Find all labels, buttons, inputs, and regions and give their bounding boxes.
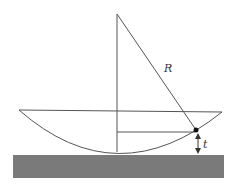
lens-gap-diagram: R t — [0, 0, 239, 188]
arc-point-marker — [194, 128, 199, 133]
flat-surface — [13, 155, 224, 178]
radius-label: R — [163, 62, 172, 75]
radius-line — [117, 14, 196, 130]
lens-top-chord — [19, 110, 222, 112]
gap-label: t — [203, 138, 208, 151]
